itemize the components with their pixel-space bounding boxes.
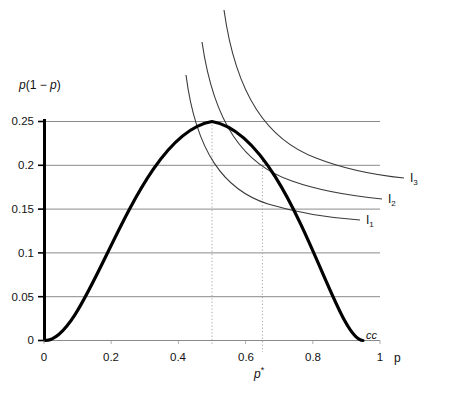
pstar-label-sup: * [261,365,265,375]
curve-label-i1-sub: 1 [369,220,373,229]
y-axis-label-p2: p [50,78,57,92]
y-tick-label-0.15: 0.15 [0,204,34,216]
y-tick-label-0.05: 0.05 [0,292,34,304]
x-tick-label-0.6: 0.6 [232,352,260,364]
x-tick-label-0: 0 [30,352,58,364]
indifference-curve-i2 [202,42,382,199]
y-tick-label-0.1: 0.1 [0,248,34,260]
y-axis-label-open: (1 − [26,78,50,92]
x-tick-label-0.2: 0.2 [97,352,125,364]
curve-label-cc: cc [366,330,377,341]
curve-label-i1: I1 [366,214,374,229]
x-tick-label-0.8: 0.8 [299,352,327,364]
pstar-label: p* [254,366,264,380]
y-tick-label-0.2: 0.2 [0,160,34,172]
y-tick-label-0: 0 [0,335,34,347]
curve-label-i3: I3 [410,172,418,187]
x-tick-label-1: 1 [366,352,394,364]
x-axis-label: p [394,352,401,364]
curve-label-i3-sub: 3 [413,178,417,187]
y-axis-label: p(1 − p) [19,79,61,91]
y-tick-label-0.25: 0.25 [0,116,34,128]
chart-figure: 0.25 0.2 0.15 0.1 0.05 0 0 0.2 0.4 0.6 0… [0,0,449,395]
cc-curve [45,122,363,341]
x-tick-label-0.4: 0.4 [164,352,192,364]
curve-label-i2-sub: 2 [391,199,395,208]
gridlines [44,122,380,297]
y-axis-label-p1: p [19,78,26,92]
y-axis-label-close: ) [57,78,61,92]
chart-plot-area [0,0,449,395]
curve-label-i2: I2 [388,193,396,208]
indifference-curve-i1 [186,75,360,220]
indifference-curve-i3 [224,10,404,178]
pstar-label-main: p [254,367,261,381]
